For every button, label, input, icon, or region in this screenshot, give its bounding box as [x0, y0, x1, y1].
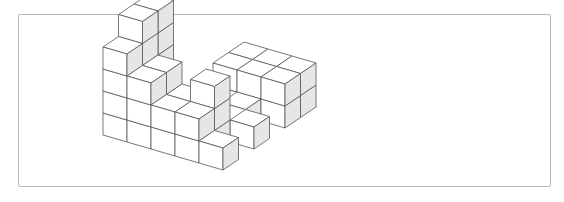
cube-arrangement-diagram	[0, 0, 564, 202]
